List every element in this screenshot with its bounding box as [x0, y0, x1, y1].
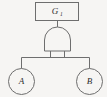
basic-event-b-label: B — [87, 76, 93, 86]
diagram-canvas: G 1 A B — [0, 0, 107, 97]
fault-tree-diagram: G 1 A B — [0, 0, 107, 97]
top-event-label-subscript: 1 — [60, 11, 63, 17]
basic-event-a-label: A — [18, 76, 25, 86]
top-event-label: G — [52, 6, 59, 16]
and-gate-shape — [45, 27, 71, 51]
